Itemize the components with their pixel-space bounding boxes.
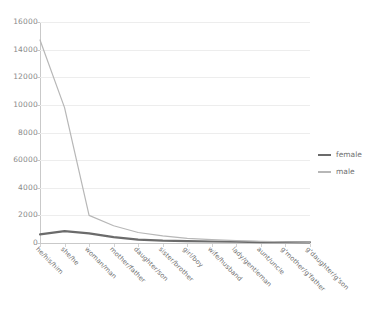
y-axis-tick-label: 60000 [2, 156, 38, 164]
x-axis-tick-mark [261, 244, 262, 247]
x-axis-tick-mark [236, 244, 237, 247]
x-axis-tick-mark [114, 244, 115, 247]
series-container [40, 22, 310, 243]
y-axis-tick-mark [37, 105, 40, 106]
chart-legend: female male [318, 148, 382, 182]
x-axis-tick-mark [65, 244, 66, 247]
x-axis-tick-mark [285, 244, 286, 247]
series-line-male [40, 40, 310, 242]
y-axis-tick-mark [37, 188, 40, 189]
y-axis-tick-label: 12000 [2, 74, 38, 82]
x-axis-category-label: she/he [59, 246, 80, 267]
x-axis-category-labels: he/his/himshe/hewoman/manmother/fatherda… [40, 246, 310, 316]
y-axis-tick-label: 0 [2, 239, 38, 247]
y-axis-tick-label: 10000 [2, 101, 38, 109]
x-axis-tick-mark [89, 244, 90, 247]
legend-swatch-female [318, 154, 331, 156]
y-axis-tick-mark [37, 77, 40, 78]
y-axis-tick-mark [37, 22, 40, 23]
y-axis-tick-mark [37, 215, 40, 216]
line-chart: 16000140001200010000800060000400020000 h… [0, 0, 385, 317]
legend-item-male: male [318, 165, 382, 179]
legend-label-male: male [336, 168, 355, 176]
x-axis-category-label: g'daughter/g'son [304, 246, 349, 291]
y-axis-tick-label: 4000 [2, 184, 38, 192]
y-axis-tick-mark [37, 133, 40, 134]
y-axis-tick-mark [37, 50, 40, 51]
x-axis-tick-mark [187, 244, 188, 247]
x-axis-tick-mark [138, 244, 139, 247]
y-axis-tick-label: 8000 [2, 129, 38, 137]
legend-swatch-male [318, 171, 331, 172]
x-axis-tick-mark [310, 244, 311, 247]
x-axis-category-label: g'mother/g'father [280, 246, 327, 293]
x-axis-tick-mark [40, 244, 41, 247]
y-axis-tick-label: 16000 [2, 18, 38, 26]
legend-item-female: female [318, 148, 382, 162]
y-axis-tick-label: 14000 [2, 46, 38, 54]
y-axis-tick-label: 2000 [2, 212, 38, 220]
x-axis-category-label: girl/boy [182, 246, 205, 269]
x-axis-tick-mark [163, 244, 164, 247]
y-axis-tick-labels: 16000140001200010000800060000400020000 [0, 0, 38, 317]
y-axis-tick-mark [37, 160, 40, 161]
x-axis-tick-mark [212, 244, 213, 247]
plot-area [40, 22, 310, 243]
legend-label-female: female [336, 151, 362, 159]
